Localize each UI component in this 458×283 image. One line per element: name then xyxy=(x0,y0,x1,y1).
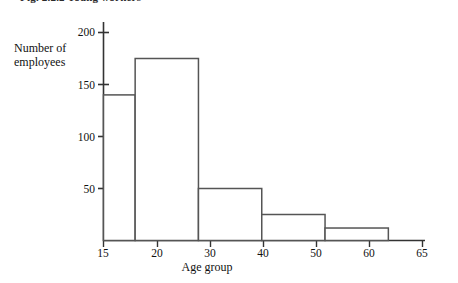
bar-30-40 xyxy=(198,189,261,241)
x-tick-label-30: 30 xyxy=(204,247,216,259)
x-axis-title: Age group xyxy=(0,260,458,275)
histogram-plot xyxy=(0,0,458,283)
bar-15-20 xyxy=(104,95,136,241)
x-tick-label-20: 20 xyxy=(151,247,163,259)
y-tick-label-150: 150 xyxy=(78,79,95,91)
bar-20-30 xyxy=(135,59,198,241)
x-tick-label-50: 50 xyxy=(310,247,322,259)
y-tick-label-100: 100 xyxy=(78,131,95,143)
bar-50-60 xyxy=(325,228,388,240)
figure-root: Fig. 2.2.2 Young workers Number of emplo… xyxy=(0,0,458,283)
x-axis-title-text: Age group xyxy=(182,260,233,274)
histogram-bars xyxy=(104,59,389,241)
y-tick-label-50: 50 xyxy=(84,183,96,195)
x-tick-label-15: 15 xyxy=(97,247,109,259)
y-tick-label-200: 200 xyxy=(78,26,95,38)
x-tick-label-40: 40 xyxy=(257,247,269,259)
x-tick-label-65: 65 xyxy=(416,247,428,259)
bar-40-50 xyxy=(262,215,325,241)
x-tick-label-60: 60 xyxy=(363,247,375,259)
